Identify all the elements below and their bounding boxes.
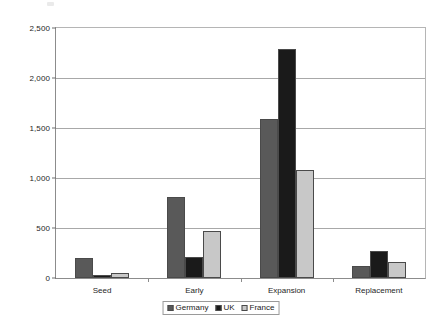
bar-group <box>333 28 425 278</box>
x-axis-tick-mark <box>148 278 149 282</box>
legend-swatch-icon <box>242 305 248 311</box>
bar-uk-expansion <box>278 49 296 278</box>
bar-group <box>241 28 333 278</box>
legend-label: Germany <box>176 304 209 312</box>
legend-item-france: France <box>242 304 275 312</box>
bar-france-early <box>203 231 221 279</box>
chart-legend: GermanyUKFrance <box>163 301 280 315</box>
y-axis-tick-label: 500 <box>36 224 50 233</box>
y-axis-tick-label: 2,500 <box>29 24 50 33</box>
legend-label: UK <box>223 304 234 312</box>
legend-swatch-icon <box>215 305 221 311</box>
y-axis-tick-label: 1,500 <box>29 124 50 133</box>
bar-france-replacement <box>388 262 406 279</box>
x-axis-category-label: Seed <box>93 286 112 295</box>
bar-france-seed <box>111 273 129 279</box>
bars-layer <box>56 28 425 278</box>
y-axis-tick-label: 1,000 <box>29 174 50 183</box>
bar-germany-early <box>167 197 185 278</box>
x-axis-category-label: Expansion <box>268 286 305 295</box>
legend-label: France <box>250 304 275 312</box>
y-axis-tick-label: 2,000 <box>29 74 50 83</box>
legend-item-uk: UK <box>215 304 234 312</box>
x-axis-category-label: Early <box>185 286 203 295</box>
x-axis-category-label: Replacement <box>355 286 402 295</box>
bar-france-expansion <box>296 170 314 278</box>
bar-germany-seed <box>75 258 93 278</box>
bar-group <box>148 28 240 278</box>
bar-uk-early <box>185 257 203 279</box>
bar-germany-replacement <box>352 266 370 279</box>
bar-uk-replacement <box>370 251 388 279</box>
bar-chart: 05001,0001,5002,0002,500 SeedEarlyExpans… <box>0 0 442 323</box>
x-axis-tick-mark <box>333 278 334 282</box>
legend-swatch-icon <box>168 305 174 311</box>
legend-item-germany: Germany <box>168 304 209 312</box>
scan-artifact <box>47 2 54 6</box>
bar-uk-seed <box>93 275 111 279</box>
bar-group <box>56 28 148 278</box>
x-axis-tick-mark <box>241 278 242 282</box>
bar-germany-expansion <box>260 119 278 278</box>
plot-area: 05001,0001,5002,0002,500 SeedEarlyExpans… <box>55 27 426 279</box>
y-axis-tick-label: 0 <box>45 274 50 283</box>
